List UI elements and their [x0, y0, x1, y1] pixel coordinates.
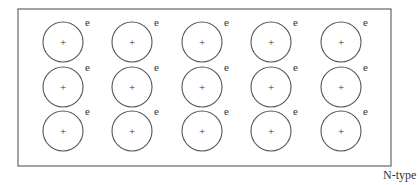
electron-label: e [154, 16, 159, 28]
donor-atom: +e [182, 105, 229, 151]
electron-label: e [154, 61, 159, 73]
n-type-semiconductor-diagram: +e+e+e+e+e+e+e+e+e+e+e+e+e+e+e N-type [0, 0, 418, 185]
electron-label: e [293, 105, 298, 117]
donor-atom: +e [112, 61, 159, 107]
donor-atom: +e [321, 105, 368, 151]
electron-label: e [363, 105, 368, 117]
positive-charge-icon: + [60, 125, 66, 137]
electron-label: e [363, 16, 368, 28]
donor-atom: +e [251, 61, 298, 107]
positive-charge-icon: + [199, 36, 205, 48]
positive-charge-icon: + [338, 36, 344, 48]
donor-atom: +e [182, 16, 229, 62]
positive-charge-icon: + [268, 125, 274, 137]
donor-atom: +e [112, 105, 159, 151]
positive-charge-icon: + [199, 125, 205, 137]
positive-charge-icon: + [60, 36, 66, 48]
positive-charge-icon: + [338, 125, 344, 137]
positive-charge-icon: + [338, 81, 344, 93]
donor-atom: +e [43, 16, 90, 62]
donor-atom: +e [251, 16, 298, 62]
positive-charge-icon: + [199, 81, 205, 93]
caption-label: N-type [383, 168, 416, 182]
electron-label: e [293, 16, 298, 28]
electron-label: e [85, 16, 90, 28]
electron-label: e [85, 105, 90, 117]
positive-charge-icon: + [129, 125, 135, 137]
electron-label: e [224, 61, 229, 73]
positive-charge-icon: + [129, 81, 135, 93]
donor-atom: +e [251, 105, 298, 151]
positive-charge-icon: + [60, 81, 66, 93]
donor-atom: +e [321, 16, 368, 62]
donor-atom: +e [43, 61, 90, 107]
donor-atom: +e [321, 61, 368, 107]
donor-atom: +e [182, 61, 229, 107]
electron-label: e [293, 61, 298, 73]
positive-charge-icon: + [268, 81, 274, 93]
donor-atom: +e [112, 16, 159, 62]
electron-label: e [224, 105, 229, 117]
positive-charge-icon: + [129, 36, 135, 48]
donor-atom: +e [43, 105, 90, 151]
electron-label: e [154, 105, 159, 117]
atom-grid: +e+e+e+e+e+e+e+e+e+e+e+e+e+e+e [43, 16, 368, 151]
electron-label: e [85, 61, 90, 73]
electron-label: e [224, 16, 229, 28]
positive-charge-icon: + [268, 36, 274, 48]
electron-label: e [363, 61, 368, 73]
